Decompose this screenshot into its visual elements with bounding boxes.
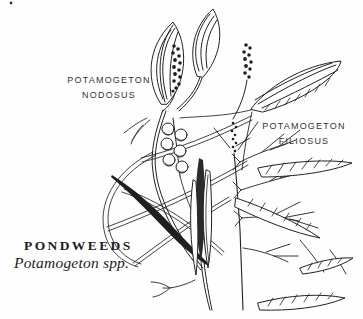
species-label-filiosus-line2: FILIOSUS (242, 134, 363, 149)
forked-twig (151, 280, 195, 297)
species-label-nodosus-line2: NODOSUS (47, 88, 171, 103)
species-label-nodosus: POTAMOGETON NODOSUS (47, 73, 171, 103)
flower-spike-center (242, 43, 253, 79)
fruit-cluster (161, 118, 188, 176)
caption-title: PONDWEEDS (24, 238, 133, 254)
ink-speck (10, 2, 13, 5)
caption-subtitle: Potamogeton spp. (14, 254, 129, 272)
species-label-filiosus-line1: POTAMOGETON (242, 119, 363, 134)
hatched-leaves (235, 159, 353, 310)
species-label-nodosus-line1: POTAMOGETON (47, 73, 171, 88)
central-leaf-column (191, 158, 212, 275)
species-label-filiosus: POTAMOGETON FILIOSUS (242, 119, 363, 149)
pondweeds-figure: POTAMOGETON NODOSUS POTAMOGETON FILIOSUS… (0, 0, 363, 319)
nodosus-leaf-big-right (251, 61, 341, 112)
filiosus-spike (231, 122, 238, 153)
